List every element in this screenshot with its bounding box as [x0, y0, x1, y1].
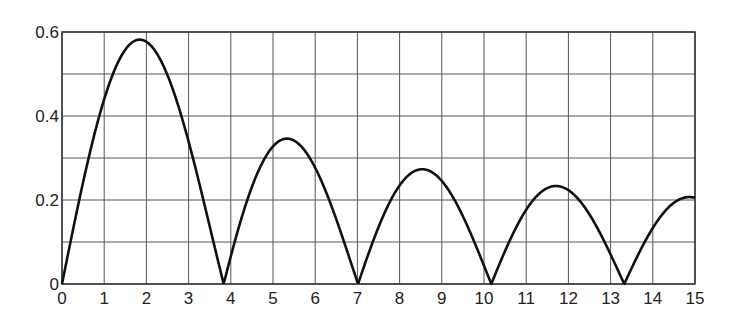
chart: 012345678910111213141500.20.40.6 — [0, 0, 731, 326]
series-line — [62, 40, 695, 284]
x-tick-label: 9 — [437, 289, 446, 308]
x-tick-label: 2 — [142, 289, 151, 308]
x-tick-label: 3 — [184, 289, 193, 308]
x-tick-label: 6 — [310, 289, 319, 308]
x-tick-label: 8 — [395, 289, 404, 308]
x-tick-label: 11 — [517, 289, 535, 308]
y-tick-label: 0.6 — [35, 23, 59, 42]
x-tick-label: 14 — [643, 289, 662, 308]
x-tick-label: 1 — [99, 289, 108, 308]
x-tick-label: 13 — [601, 289, 620, 308]
y-tick-label: 0.2 — [35, 191, 59, 210]
x-tick-label: 12 — [559, 289, 578, 308]
y-tick-label: 0 — [50, 275, 59, 294]
x-tick-label: 5 — [268, 289, 277, 308]
y-tick-label: 0.4 — [35, 107, 59, 126]
x-tick-label: 7 — [353, 289, 362, 308]
x-tick-label: 10 — [475, 289, 494, 308]
x-tick-label: 15 — [686, 289, 705, 308]
x-tick-label: 4 — [226, 289, 235, 308]
